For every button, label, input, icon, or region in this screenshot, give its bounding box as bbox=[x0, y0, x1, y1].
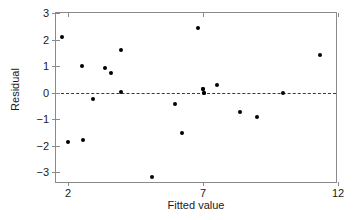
x-axis-tick bbox=[203, 182, 204, 186]
data-point bbox=[238, 110, 242, 114]
data-point bbox=[91, 97, 95, 101]
data-point bbox=[201, 87, 205, 91]
data-point bbox=[255, 115, 259, 119]
y-axis-tick-inner bbox=[56, 172, 60, 173]
y-axis-tick-label: 2 bbox=[43, 34, 49, 45]
data-point bbox=[196, 26, 200, 30]
data-point bbox=[103, 66, 107, 70]
y-axis-tick-inner bbox=[56, 146, 60, 147]
data-point bbox=[119, 90, 123, 94]
y-axis-tick-inner bbox=[56, 119, 60, 120]
data-point bbox=[202, 91, 206, 95]
data-point bbox=[109, 71, 113, 75]
x-axis-tick-label: 12 bbox=[332, 188, 344, 199]
zero-reference-line bbox=[56, 93, 336, 94]
plot-frame: 3210−1−2−3 2712 bbox=[55, 12, 337, 183]
data-point bbox=[173, 102, 177, 106]
data-point bbox=[80, 64, 84, 68]
y-axis-tick-label: −2 bbox=[36, 140, 49, 151]
plot-area: 3210−1−2−3 2712 bbox=[56, 13, 336, 182]
data-point bbox=[281, 91, 285, 95]
residual-plot-figure: 3210−1−2−3 2712 Fitted value Residual bbox=[0, 0, 356, 220]
y-axis-tick-label: −3 bbox=[36, 167, 49, 178]
x-axis-tick-label: 7 bbox=[200, 188, 206, 199]
x-axis-title: Fitted value bbox=[55, 200, 337, 211]
x-axis-tick-inner bbox=[203, 13, 204, 17]
x-axis-tick-label: 2 bbox=[65, 188, 71, 199]
data-point bbox=[66, 140, 70, 144]
x-axis-tick bbox=[338, 182, 339, 186]
data-point bbox=[215, 83, 219, 87]
data-point bbox=[150, 175, 154, 179]
data-point bbox=[81, 138, 85, 142]
y-axis-tick-label: 3 bbox=[43, 8, 49, 19]
x-axis-tick bbox=[68, 182, 69, 186]
data-point bbox=[60, 35, 64, 39]
y-axis-tick-inner bbox=[56, 66, 60, 67]
y-axis-tick-label: 0 bbox=[43, 87, 49, 98]
y-axis-tick-label: 1 bbox=[43, 61, 49, 72]
y-axis-tick-label: −1 bbox=[36, 114, 49, 125]
y-axis-title: Residual bbox=[8, 4, 22, 175]
data-point bbox=[318, 53, 322, 57]
data-point bbox=[119, 48, 123, 52]
x-axis-tick-inner bbox=[68, 13, 69, 17]
y-axis-tick-inner bbox=[56, 40, 60, 41]
x-axis-tick-inner bbox=[338, 13, 339, 17]
y-axis-tick-inner bbox=[56, 13, 60, 14]
data-point bbox=[180, 131, 184, 135]
y-axis-tick-inner bbox=[56, 93, 60, 94]
